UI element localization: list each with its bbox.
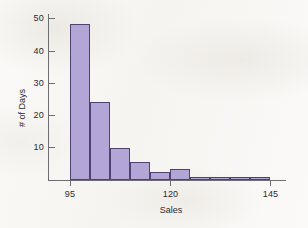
histogram-bar <box>230 177 250 180</box>
histogram-bar <box>250 177 270 180</box>
y-tick-label-50: 50 <box>18 13 44 23</box>
x-tick-95 <box>70 181 71 186</box>
y-tick-10 <box>49 147 55 148</box>
y-tick-20 <box>49 115 55 116</box>
y-axis-line <box>48 14 49 181</box>
histogram-bar <box>90 102 110 180</box>
histogram-bar <box>110 148 130 180</box>
y-tick-label-10: 10 <box>18 142 44 152</box>
histogram-bar <box>150 172 170 180</box>
x-axis-line <box>48 180 286 181</box>
x-tick-label-145: 145 <box>256 189 285 199</box>
histogram-figure: 50 40 30 20 10 95 120 145 # of Days Sale… <box>0 0 308 228</box>
x-tick-label-95: 95 <box>56 189 84 199</box>
plot-area: 50 40 30 20 10 95 120 145 # of Days Sale… <box>0 0 308 228</box>
x-tick-145 <box>270 181 271 186</box>
y-tick-label-40: 40 <box>18 46 44 56</box>
x-axis-title: Sales <box>136 205 206 215</box>
y-tick-50 <box>49 18 55 19</box>
histogram-bar <box>170 169 190 180</box>
y-tick-30 <box>49 83 55 84</box>
x-tick-120 <box>170 181 171 186</box>
histogram-bar <box>130 162 150 180</box>
histogram-bar <box>190 177 210 180</box>
histogram-bar <box>210 177 230 180</box>
y-axis-title: # of Days <box>17 67 27 127</box>
histogram-bar <box>70 24 90 180</box>
y-tick-40 <box>49 51 55 52</box>
x-tick-label-120: 120 <box>156 189 185 199</box>
